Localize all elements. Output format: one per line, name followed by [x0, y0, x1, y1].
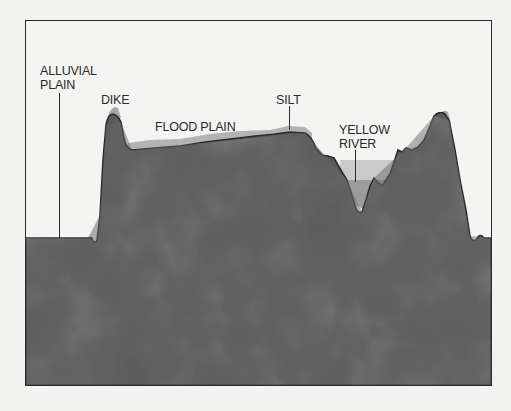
- flood-plain-label: FLOOD PLAIN: [155, 120, 235, 134]
- yellow-river-label-line1: YELLOW: [339, 123, 390, 137]
- yellow-river-label-line2: RIVER: [339, 137, 390, 151]
- alluvial-plain-label-line1: ALLUVIAL: [40, 64, 97, 78]
- alluvial-plain-label-line2: PLAIN: [40, 78, 97, 92]
- terrain-cross-section: [0, 0, 511, 411]
- silt-leader-line: [289, 106, 290, 130]
- ground-body: [26, 112, 491, 385]
- yellow-river-leader-line: [355, 150, 356, 182]
- dike-label: DIKE: [101, 93, 129, 107]
- alluvial-plain-label: ALLUVIAL PLAIN: [40, 64, 97, 92]
- alluvial-plain-leader-line: [59, 93, 60, 238]
- silt-label: SILT: [276, 93, 301, 107]
- yellow-river-label: YELLOW RIVER: [339, 123, 390, 151]
